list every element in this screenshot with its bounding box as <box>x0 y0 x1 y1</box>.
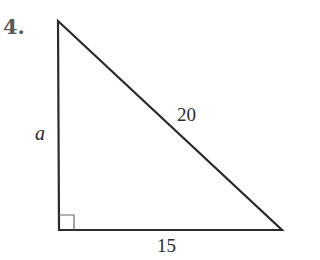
right-angle-marker <box>59 215 74 230</box>
triangle-outline <box>58 21 282 230</box>
base-label: 15 <box>157 236 176 255</box>
hypotenuse-label: 20 <box>177 105 196 124</box>
leg-a-label: a <box>35 123 45 143</box>
